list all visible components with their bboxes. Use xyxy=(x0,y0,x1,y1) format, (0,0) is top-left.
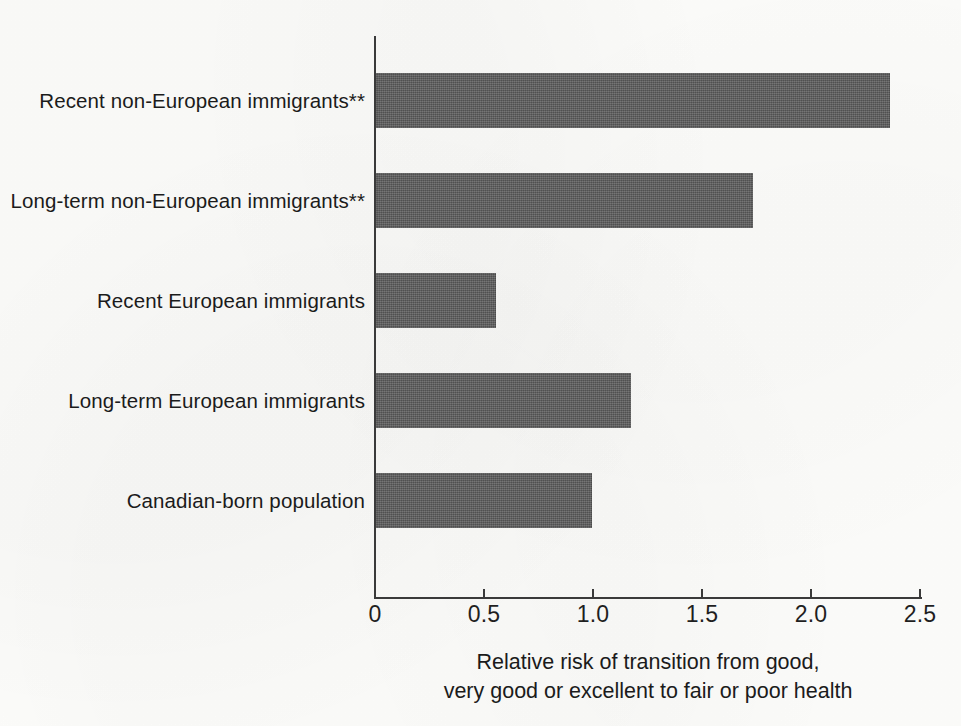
x-tick-label: 2.5 xyxy=(904,601,937,628)
x-tick-label: 1.0 xyxy=(577,601,610,628)
x-tick-mark xyxy=(374,589,376,598)
bar xyxy=(376,473,592,528)
category-label: Long-term European immigrants xyxy=(68,389,365,413)
x-axis-line xyxy=(374,597,922,599)
x-axis-caption-line-2: very good or excellent to fair or poor h… xyxy=(374,677,922,706)
bar-row: Recent non-European immigrants** xyxy=(0,73,961,128)
plot-area: Recent non-European immigrants**Long-ter… xyxy=(0,0,961,726)
x-tick-mark xyxy=(483,589,485,598)
x-tick-label: 2.0 xyxy=(795,601,828,628)
chart-page: Recent non-European immigrants**Long-ter… xyxy=(0,0,961,726)
category-label: Recent European immigrants xyxy=(97,289,365,313)
bar xyxy=(376,73,890,128)
x-axis-caption: Relative risk of transition from good, v… xyxy=(374,648,922,706)
x-tick-label: 0 xyxy=(369,601,382,628)
bar xyxy=(376,273,496,328)
x-tick-label: 1.5 xyxy=(686,601,719,628)
x-tick-mark xyxy=(592,589,594,598)
bar xyxy=(376,373,631,428)
bar-row: Recent European immigrants xyxy=(0,273,961,328)
x-tick-mark xyxy=(919,589,921,598)
category-label: Canadian-born population xyxy=(127,489,365,513)
bar xyxy=(376,173,753,228)
category-label: Recent non-European immigrants** xyxy=(39,89,365,113)
bar-row: Long-term non-European immigrants** xyxy=(0,173,961,228)
x-tick-mark xyxy=(810,589,812,598)
category-label: Long-term non-European immigrants** xyxy=(11,189,365,213)
bar-row: Canadian-born population xyxy=(0,473,961,528)
x-axis-caption-line-1: Relative risk of transition from good, xyxy=(374,648,922,677)
x-tick-label: 0.5 xyxy=(468,601,501,628)
bar-row: Long-term European immigrants xyxy=(0,373,961,428)
x-tick-mark xyxy=(701,589,703,598)
